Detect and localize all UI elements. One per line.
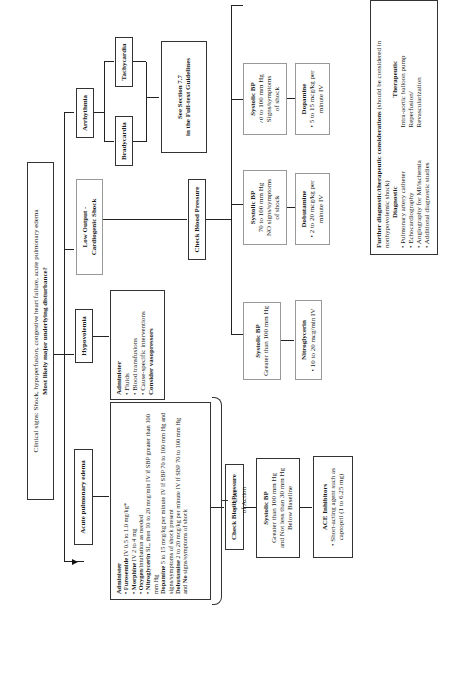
sbp-line: 70 to 100 mm Hg: [257, 183, 265, 232]
hypovolemia-label: Hypovolemia: [80, 316, 88, 356]
sbp-box-lt70: [243, 0, 245, 50]
list-item: Fluids: [123, 311, 131, 395]
list-item: Pulmonary artery catheter: [399, 128, 407, 249]
check-bp-label: Check Blood Pressure: [193, 187, 201, 253]
diagnostic-title: Diagnostic: [391, 128, 399, 249]
connector: [300, 507, 312, 508]
dopamine-text: Dopamine 5 to 15 mcg/kg per minute IV if…: [159, 408, 174, 594]
ape-admin-box: Administer • Furosemide IV 0.5 to 1.0 mg…: [110, 402, 211, 600]
drug-dose: 10 to 20 mcg/min IV: [309, 309, 317, 368]
connector: [104, 141, 114, 142]
sbp-title: Systolic BP: [249, 82, 257, 116]
connector: [133, 141, 146, 142]
connector: [104, 62, 105, 142]
connector: [231, 204, 243, 205]
line-word: Line: [231, 489, 239, 504]
sbp-title: Systolic BP: [254, 324, 262, 358]
drug-dose: /intubation as needed: [137, 515, 144, 569]
drug-box-dopamine: Dopamine • 5 to 15 mcg/kg per minute IV: [295, 63, 330, 135]
connector: [206, 219, 231, 220]
connector: [94, 112, 104, 113]
connector: [103, 219, 187, 220]
connector: [64, 354, 74, 355]
drug-item: • 10 to 20 mcg/min IV: [309, 309, 317, 372]
ordinal: 1: [231, 507, 239, 511]
drug-dose: signs/symptoms of shock: [181, 509, 188, 575]
list-item: Intra-aortic balloon pump: [399, 7, 407, 128]
sbp-line: Greater than 100 mm Hg: [270, 473, 278, 543]
tachycardia-label: Tachycardia: [120, 43, 128, 80]
clinical-signs-text: Clinical signs: Shock, hypoperfusion, co…: [32, 210, 40, 453]
ordinal-suffix: st: [230, 504, 235, 507]
connector: [146, 97, 159, 98]
diagnostic-column: Diagnostic Pulmonary artery catheter Ech…: [391, 128, 431, 249]
ace-inhibitors-box: ACE Inhibitors • Short-acting agent such…: [313, 456, 353, 558]
drug-title: Nitroglycerin: [300, 320, 308, 360]
connector: [231, 5, 243, 6]
ace-item-text: Short-acting agent such as captopril (1 …: [329, 468, 345, 542]
drug-dose: 5 to 15 mcg/kg per minute IV: [308, 70, 324, 123]
drug-name: Furosemide: [122, 558, 129, 590]
hypovolemia-admin-list: Fluids Blood transfusions Cause-specific…: [123, 311, 147, 395]
drug-dose: IV 2 to 4 mg: [130, 529, 137, 563]
drug-box-nitroglycerin: Nitroglycerin • 10 to 20 mcg/min IV: [295, 300, 322, 380]
connector: [231, 99, 243, 100]
first-line-label: 1st Line of Action: [230, 470, 248, 530]
hypovolemia-box: Hypovolemia: [75, 309, 93, 363]
consider-vasopressors: Consider vasopressors: [147, 328, 155, 395]
low-output-line1: Low Output -: [81, 207, 89, 248]
sbp-line: Below Baseline: [286, 486, 294, 530]
sbp-line: of shock: [273, 196, 281, 220]
see-section-line2: in the Full-text Guidelines: [184, 58, 192, 136]
drug-item: • 2 to 20 mcg/kg per minute IV: [308, 177, 324, 241]
emphasis: No: [181, 575, 188, 583]
clinical-signs-question: Most likely major underlying disturbance…: [41, 267, 49, 395]
bradycardia-label: Bradycardia: [120, 122, 128, 160]
drug-dose: IV 0.5 to 1.0 mg/kg*: [122, 503, 129, 558]
connector: [93, 496, 109, 497]
connector: [146, 62, 147, 142]
arrow-icon: [72, 559, 78, 565]
arrhythmia-box: Arrhythmia: [76, 88, 94, 138]
sbp-box-70-100-shock: Systolic BP 70 to 100 mm Hg Signs/sympto…: [243, 63, 287, 135]
acute-pulmonary-edema-box: Acute pulmonary edema: [74, 449, 93, 545]
ape-sbp-box: Systolic BP Greater than 100 mm Hg and N…: [256, 458, 300, 558]
connector: [281, 340, 294, 341]
drug-box-dobutamine: Dobutamine • 2 to 20 mcg/kg per minute I…: [295, 173, 330, 245]
list-item: • Morphine IV 2 to 4 mg: [130, 529, 137, 594]
connector: [231, 334, 243, 335]
sbp-line: of shock: [273, 87, 281, 111]
drug-name: Nitroglycerin: [144, 554, 151, 590]
branch-bus: [64, 112, 65, 562]
hypovolemia-admin-box: Administer Fluids Blood transfusions Cau…: [110, 290, 165, 400]
list-item: • Oxygen/intubation as needed: [137, 515, 144, 594]
sbp-line: NO signs/symptoms: [265, 179, 273, 236]
sbp-line: and Not less than 30 mm Hg: [278, 468, 286, 548]
sbp-line: 70 to 100 mm Hg: [257, 74, 265, 123]
dobutamine-text: Dobutamine 2 to 20 mcg/kg per minute IV …: [174, 408, 189, 594]
drug-item: • 5 to 15 mcg/kg per minute IV: [308, 67, 324, 131]
brace-tip: [222, 500, 228, 501]
of-action: of Action: [240, 470, 248, 530]
see-section-box: See Section 7.7 in the Full-text Guideli…: [161, 41, 207, 153]
therapeutic-title: Therapeutic: [391, 7, 399, 128]
sbp-bus: [231, 5, 232, 335]
sbp-title: Systolic BP: [249, 191, 257, 225]
list-item: Echocardiography: [407, 128, 415, 249]
further-title-bold: Further diagnostic/therapeutic considera…: [375, 111, 383, 248]
drug-title: Dobutamine: [300, 191, 308, 228]
therapeutic-column: Therapeutic Intra-aortic balloon pump Re…: [391, 7, 431, 128]
sbp-line: Greater than 100 mm Hg: [262, 306, 270, 376]
flowchart-canvas: Clinical signs: Shock, hypoperfusion, co…: [0, 0, 461, 690]
tachycardia-box: Tachycardia: [115, 37, 133, 87]
connector: [64, 249, 74, 250]
ace-item: • Short-acting agent such as captopril (…: [329, 460, 345, 554]
list-item: • Nitroglycerin SL, then 10 to 20 mcg/mi…: [144, 408, 159, 594]
brace-1st-line: [212, 397, 222, 605]
list-item: • Furosemide IV 0.5 to 1.0 mg/kg*: [122, 503, 129, 594]
connector: [133, 61, 146, 62]
list-item: Angiography for MI/ischemia: [415, 128, 423, 249]
drug-name: Oxygen: [137, 569, 144, 590]
list-item: Blood transfusions: [131, 311, 139, 395]
sbp-title: Systolic BP: [262, 491, 270, 525]
